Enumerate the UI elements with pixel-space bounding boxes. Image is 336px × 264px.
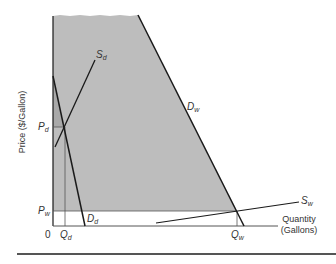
x-axis-label-line2: (Gallons) — [281, 225, 318, 235]
qd-label: Qd — [60, 229, 73, 241]
supply-demand-figure: Price ($/Gallon) Sd Dw Dd Sw Pd Pw 0 Qd … — [0, 0, 336, 264]
qw-label: Qw — [231, 229, 245, 241]
dd-label: Dd — [87, 213, 99, 225]
x-axis-label-line1: Quantity — [282, 214, 316, 224]
bottom-rule — [17, 253, 336, 255]
world-surplus-shaded-area — [53, 15, 237, 211]
origin-label: 0 — [45, 229, 51, 240]
sw-label: Sw — [301, 195, 314, 207]
pw-label: Pw — [38, 205, 51, 217]
dw-label: Dw — [187, 101, 200, 113]
pd-label: Pd — [38, 121, 50, 133]
y-axis-label: Price ($/Gallon) — [17, 91, 27, 154]
